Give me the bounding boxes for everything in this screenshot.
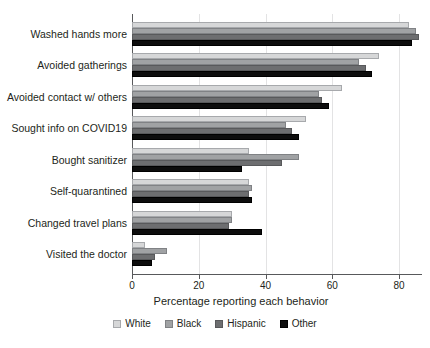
legend-item: Other [280, 318, 317, 329]
legend-label: White [125, 318, 151, 329]
bar-group [132, 85, 399, 109]
category-label: Self-quarantined [50, 185, 127, 197]
category-label: Avoided gatherings [37, 59, 127, 71]
plot-area [132, 18, 399, 270]
bar-group [132, 148, 399, 172]
x-axis-tick [332, 274, 333, 279]
legend-swatch-white [113, 320, 121, 328]
legend-label: Black [177, 318, 201, 329]
x-axis-tick-label: 0 [129, 280, 135, 291]
bar [132, 197, 252, 203]
category-label: Changed travel plans [28, 217, 127, 229]
bar-group [132, 211, 399, 235]
x-axis-title: Percentage reporting each behavior [0, 295, 430, 307]
x-axis-tick [266, 274, 267, 279]
bar [132, 166, 242, 172]
legend-swatch-black [165, 320, 173, 328]
bar-group [132, 53, 399, 77]
x-axis-tick [199, 274, 200, 279]
x-axis-line [132, 274, 422, 275]
category-label: Bought sanitizer [52, 154, 127, 166]
bar-group [132, 179, 399, 203]
bar [132, 71, 372, 77]
legend-label: Other [292, 318, 317, 329]
legend-item: White [113, 318, 151, 329]
x-axis-title-text: Percentage reporting each behavior [154, 295, 329, 307]
legend-label: Hispanic [227, 318, 265, 329]
legend-item: Hispanic [215, 318, 265, 329]
gridline [399, 14, 400, 274]
category-label: Washed hands more [31, 28, 128, 40]
category-label: Sought info on COVID19 [11, 122, 127, 134]
bar [132, 40, 412, 46]
bar-group [132, 116, 399, 140]
x-axis-tick [399, 274, 400, 279]
bar [132, 103, 329, 109]
bar-chart: 020406080 Washed hands moreAvoided gathe… [0, 0, 430, 348]
x-axis-tick-label: 20 [193, 280, 204, 291]
legend-swatch-hispanic [215, 320, 223, 328]
bar [132, 260, 152, 266]
bar-group [132, 22, 399, 46]
category-label: Avoided contact w/ others [7, 91, 127, 103]
legend: WhiteBlackHispanicOther [0, 318, 430, 329]
x-axis-tick [132, 274, 133, 279]
bar [132, 134, 299, 140]
x-axis-tick-label: 60 [327, 280, 338, 291]
bar [132, 229, 262, 235]
category-label: Visited the doctor [46, 248, 127, 260]
bar-group [132, 242, 399, 266]
legend-swatch-other [280, 320, 288, 328]
legend-item: Black [165, 318, 201, 329]
x-axis-tick-label: 80 [393, 280, 404, 291]
x-axis-tick-label: 40 [260, 280, 271, 291]
